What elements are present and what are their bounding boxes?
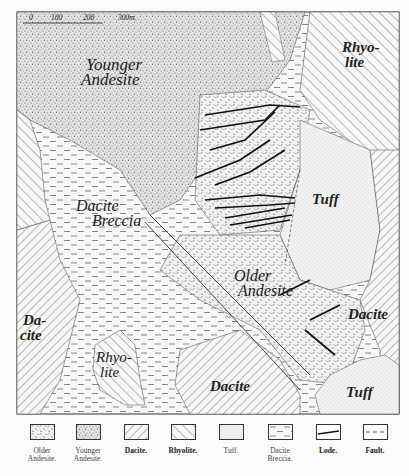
- label-rhyolite-ne: Rhyo- lite: [342, 40, 380, 70]
- dacite-breccia-swatch: [268, 424, 293, 440]
- label-older-andesite: Older Andesite: [234, 268, 293, 298]
- scale-tick: 300m.: [118, 13, 137, 22]
- fault-swatch: [363, 424, 388, 440]
- legend-item-fault: Fault.: [350, 424, 400, 455]
- label-dacite-breccia: Dacite Breccia: [76, 198, 141, 228]
- legend-item-rhyolite: Rhyolite.: [158, 424, 208, 455]
- legend-item-lode: Lode.: [303, 424, 353, 455]
- rhyolite-swatch: [171, 424, 196, 440]
- label-rhyolite-sw: Rhyo- lite: [96, 350, 132, 380]
- legend-item-dacite-breccia: DaciteBreccia.: [255, 424, 305, 463]
- legend-item-dacite: Dacite.: [111, 424, 161, 455]
- lode-swatch: [316, 424, 341, 440]
- label-dacite-south: Dacite: [210, 379, 250, 394]
- label-tuff-se: Tuff: [346, 385, 373, 400]
- younger-andesite-swatch: [76, 424, 101, 440]
- legend-item-older-andesite: OlderAndesite.: [17, 424, 67, 463]
- label-younger-andesite: Younger Andesite: [86, 57, 142, 87]
- tuff-swatch: [219, 424, 244, 440]
- legend-item-younger-andesite: YoungerAndesite.: [63, 424, 113, 463]
- dacite-swatch: [124, 424, 149, 440]
- scale-tick: 200: [83, 13, 94, 22]
- scale-tick: 100: [51, 13, 62, 22]
- label-dacite-east: Dacite: [348, 307, 388, 322]
- legend-item-tuff: Tuff.: [206, 424, 256, 455]
- scale-tick: 0: [29, 13, 33, 22]
- label-dacite-west: Da- cite: [23, 313, 46, 343]
- older-andesite-swatch: [30, 424, 55, 440]
- label-tuff-center: Tuff: [312, 192, 339, 207]
- map-legend: OlderAndesite. YoungerAndesite. Dacite. …: [0, 424, 409, 476]
